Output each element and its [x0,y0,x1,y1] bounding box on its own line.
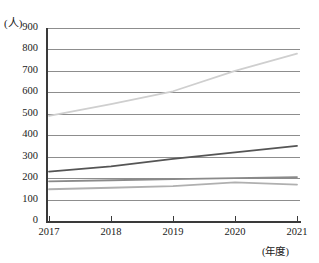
x-axis-tick-label: 2021 [277,227,317,238]
x-axis-tick-label: 2019 [153,227,193,238]
x-axis-tick-label: 2017 [29,227,69,238]
line-chart: (人) (年度) 9008007006005004003002001000 20… [0,0,319,263]
data-line-series-3 [49,177,297,181]
x-axis-tick-label: 2020 [215,227,255,238]
data-line-series-2 [49,146,297,172]
x-axis-tick-label: 2018 [91,227,131,238]
plot-area [46,28,300,221]
data-line-series-4 [49,182,297,189]
data-line-series-1 [49,54,297,116]
